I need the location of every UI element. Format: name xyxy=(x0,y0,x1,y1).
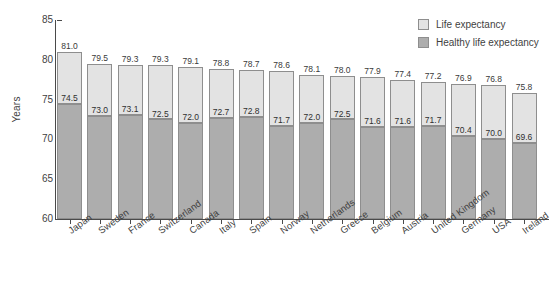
y-axis-tick-label: 85 xyxy=(42,14,53,26)
bar-column xyxy=(209,69,234,219)
bar-value-label-healthy-life-expectancy: 71.7 xyxy=(425,115,442,125)
bar-value-label-healthy-life-expectancy: 71.6 xyxy=(395,116,412,126)
legend-swatch-icon xyxy=(418,19,429,30)
bar-value-label-healthy-life-expectancy: 70.0 xyxy=(485,128,502,138)
bar-column xyxy=(390,80,415,219)
y-axis-tick-label: 80 xyxy=(42,54,53,66)
bar-column xyxy=(512,93,537,219)
bar-value-label-healthy-life-expectancy: 72.5 xyxy=(152,109,169,119)
bar-value-label-healthy-life-expectancy: 72.5 xyxy=(334,109,351,119)
bar-segment-healthy-life-expectancy xyxy=(299,123,324,219)
bar-column xyxy=(239,70,264,219)
bar-column xyxy=(269,71,294,219)
bar-value-label-life-expectancy: 81.0 xyxy=(61,41,78,51)
bar-segment-healthy-life-expectancy xyxy=(421,126,446,219)
legend-label: Healthy life expectancy xyxy=(436,37,539,48)
bar-value-label-life-expectancy: 78.1 xyxy=(304,64,321,74)
bar-segment-healthy-life-expectancy xyxy=(390,127,415,219)
bar-value-label-healthy-life-expectancy: 73.0 xyxy=(92,105,109,115)
chart-legend: Life expectancy Healthy life expectancy xyxy=(418,16,539,52)
bar-value-label-life-expectancy: 78.8 xyxy=(213,58,230,68)
bar-value-label-life-expectancy: 79.3 xyxy=(122,54,139,64)
bar-segment-healthy-life-expectancy xyxy=(87,116,112,219)
bar-value-label-healthy-life-expectancy: 71.6 xyxy=(364,116,381,126)
legend-item-life-expectancy: Life expectancy xyxy=(418,16,539,32)
y-axis-title: Years xyxy=(11,80,22,140)
bar-value-label-life-expectancy: 75.8 xyxy=(516,82,533,92)
y-axis-tick-label: 60 xyxy=(42,213,53,225)
bar-value-label-life-expectancy: 79.1 xyxy=(182,56,199,66)
bar-value-label-healthy-life-expectancy: 72.7 xyxy=(213,107,230,117)
bar-segment-healthy-life-expectancy xyxy=(209,118,234,219)
bar-value-label-healthy-life-expectancy: 72.8 xyxy=(243,106,260,116)
y-axis-tick-label: 70 xyxy=(42,133,53,145)
bar-value-label-life-expectancy: 78.6 xyxy=(273,60,290,70)
bar-column xyxy=(118,65,143,219)
bar-column xyxy=(87,64,112,219)
y-axis-tick-label: 65 xyxy=(42,173,53,185)
y-axis-tick-label: 75 xyxy=(42,94,53,106)
bar-segment-healthy-life-expectancy xyxy=(57,104,82,219)
bar-column xyxy=(178,67,203,219)
bar-column xyxy=(148,65,173,219)
chart-container: Years 606570758085 81.074.579.573.079.37… xyxy=(0,0,559,284)
bar-segment-healthy-life-expectancy xyxy=(239,117,264,219)
bar-value-label-life-expectancy: 79.5 xyxy=(92,53,109,63)
legend-label: Life expectancy xyxy=(436,19,506,30)
bar-segment-healthy-life-expectancy xyxy=(512,143,537,219)
bar-value-label-life-expectancy: 78.0 xyxy=(334,65,351,75)
bar-segment-healthy-life-expectancy xyxy=(269,126,294,219)
bar-value-label-healthy-life-expectancy: 72.0 xyxy=(182,112,199,122)
y-axis-tick-mark xyxy=(57,20,62,21)
bar-value-label-life-expectancy: 76.9 xyxy=(455,73,472,83)
bar-value-label-healthy-life-expectancy: 70.4 xyxy=(455,125,472,135)
bar-value-label-life-expectancy: 77.2 xyxy=(425,71,442,81)
bar-value-label-life-expectancy: 79.3 xyxy=(152,54,169,64)
legend-item-healthy-life-expectancy: Healthy life expectancy xyxy=(418,34,539,50)
bar-value-label-life-expectancy: 76.8 xyxy=(485,74,502,84)
bar-value-label-healthy-life-expectancy: 71.7 xyxy=(273,115,290,125)
bar-column xyxy=(360,77,385,219)
legend-swatch-icon xyxy=(418,37,429,48)
bar-value-label-life-expectancy: 77.9 xyxy=(364,66,381,76)
bar-value-label-healthy-life-expectancy: 72.0 xyxy=(304,112,321,122)
y-axis-line xyxy=(55,20,56,219)
bar-value-label-healthy-life-expectancy: 73.1 xyxy=(122,104,139,114)
bar-column xyxy=(57,52,82,219)
bar-value-label-life-expectancy: 77.4 xyxy=(395,69,412,79)
bar-segment-healthy-life-expectancy xyxy=(148,119,173,219)
bar-segment-healthy-life-expectancy xyxy=(360,127,385,219)
bar-column xyxy=(299,75,324,219)
bar-column xyxy=(421,82,446,219)
bar-segment-healthy-life-expectancy xyxy=(118,115,143,219)
bar-value-label-life-expectancy: 78.7 xyxy=(243,59,260,69)
bar-value-label-healthy-life-expectancy: 69.6 xyxy=(516,132,533,142)
bar-value-label-healthy-life-expectancy: 74.5 xyxy=(61,93,78,103)
y-axis-tick: 85 xyxy=(26,14,62,26)
